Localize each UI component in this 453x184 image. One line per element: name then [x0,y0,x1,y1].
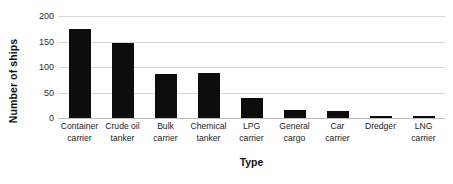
bar-chart: Number of ships 050100150200 Containerca… [0,0,453,184]
bar-slot [58,16,101,118]
gridline [58,118,445,119]
x-axis-tick-label-line: tanker [102,133,143,145]
x-axis-tick-label: LPGcarrier [230,121,273,155]
bar [413,116,435,118]
x-axis-tick-label: Chemicaltanker [187,121,230,155]
bar [112,43,134,118]
y-axis-tick-label: 50 [24,89,54,98]
x-axis-tick-label-line: carrier [145,133,186,145]
bar [155,74,177,118]
bar-slot [359,16,402,118]
x-axis-tick-label-line: tanker [188,133,229,145]
bar [327,111,349,118]
x-axis-tick-label: Dredger [359,121,402,155]
y-axis-tick-labels: 050100150200 [18,16,54,118]
bars-layer [58,16,445,118]
x-axis-tick-label-line: carrier [59,133,100,145]
x-axis-title: Type [58,156,445,168]
x-axis-tick-labels: ContainercarrierCrude oiltankerBulkcarri… [58,121,445,155]
x-axis-tick-label: LNGcarrier [402,121,445,155]
bar [284,110,306,118]
bar-slot [230,16,273,118]
x-axis-tick-label-line: LNG [403,121,444,133]
y-axis-tick-label: 100 [24,63,54,72]
x-axis-tick-label: Containercarrier [58,121,101,155]
x-axis-tick-label-line: carrier [317,133,358,145]
x-axis-tick-label-line: Container [59,121,100,133]
x-axis-tick-label-line: Car [317,121,358,133]
bar-slot [101,16,144,118]
bar-slot [187,16,230,118]
bar [370,116,392,118]
bar [198,73,220,118]
x-axis-tick-label: Generalcargo [273,121,316,155]
x-axis-tick-label: Bulkcarrier [144,121,187,155]
x-axis-tick-label-line: Crude oil [102,121,143,133]
x-axis-tick-label-line: carrier [403,133,444,145]
bar-slot [273,16,316,118]
x-axis-tick-label-line: Chemical [188,121,229,133]
x-axis-tick-label-line: carrier [231,133,272,145]
bar-slot [402,16,445,118]
x-axis-tick-label-line: General [274,121,315,133]
x-axis-tick-label-line: Dredger [360,121,401,133]
bar-slot [316,16,359,118]
x-axis-tick-label-line: Bulk [145,121,186,133]
bar [69,29,91,118]
x-axis-tick-label-line: LPG [231,121,272,133]
y-axis-tick-label: 150 [24,38,54,47]
x-axis-tick-label-line: cargo [274,133,315,145]
x-axis-tick-label: Carcarrier [316,121,359,155]
x-axis-tick-label: Crude oiltanker [101,121,144,155]
y-axis-tick-label: 0 [24,114,54,123]
y-axis-tick-label: 200 [24,12,54,21]
bar [241,98,263,118]
bar-slot [144,16,187,118]
